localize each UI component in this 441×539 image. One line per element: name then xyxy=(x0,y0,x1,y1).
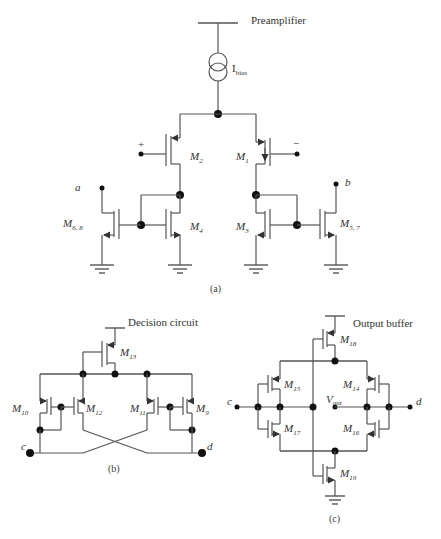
caption-b: (b) xyxy=(108,463,120,475)
circuit-figure: Preamplifier Ibias + M2 xyxy=(0,0,441,539)
transistor-m5-7 xyxy=(297,182,339,266)
b-terminal: b xyxy=(345,176,351,188)
transistor-m6-8 xyxy=(100,186,142,266)
m1-label: M1 xyxy=(235,150,249,165)
m16-label: M16 xyxy=(342,422,360,437)
m4-label: M4 xyxy=(189,220,203,235)
m11-label: M11 xyxy=(129,402,146,417)
transistor-m4 xyxy=(141,209,180,265)
transistor-m11 xyxy=(147,374,170,430)
d-terminal: d xyxy=(416,395,422,407)
panel-b-decision-circuit: Decision circuit M13 M10 xyxy=(11,316,213,475)
ground-icon xyxy=(244,265,268,273)
m13-label: M13 xyxy=(119,346,137,361)
transistor-m1 xyxy=(256,114,300,195)
plus-terminal: + xyxy=(138,138,144,150)
preamplifier-title: Preamplifier xyxy=(251,14,306,26)
decision-circuit-title: Decision circuit xyxy=(128,316,198,328)
transistor-m15 xyxy=(258,361,280,407)
transistor-m3 xyxy=(256,209,297,265)
m19-label: M19 xyxy=(339,467,357,482)
caption-c: (c) xyxy=(329,513,340,525)
m14-label: M14 xyxy=(342,378,360,393)
m12-label: M12 xyxy=(85,402,103,417)
d-terminal: d xyxy=(207,440,213,452)
minus-terminal: − xyxy=(293,137,299,149)
m6-8-label: M6, 8 xyxy=(62,217,83,232)
transistor-m2 xyxy=(139,114,181,195)
m18-label: M18 xyxy=(339,333,357,348)
c-terminal-node xyxy=(26,449,34,457)
panel-a-preamplifier: Preamplifier Ibias + M2 xyxy=(62,14,360,295)
ground-icon xyxy=(324,265,348,273)
current-source-icon xyxy=(209,53,227,81)
transistor-m19 xyxy=(313,451,335,496)
transistor-m10 xyxy=(40,374,61,430)
ground-icon xyxy=(325,496,345,504)
m10-label: M10 xyxy=(11,402,29,417)
transistor-m17 xyxy=(258,407,280,451)
transistor-m14 xyxy=(367,361,389,407)
m15-label: M15 xyxy=(283,378,301,393)
m5-7-label: M5, 7 xyxy=(339,217,360,232)
ground-icon xyxy=(168,265,192,273)
ibias-label: Ibias xyxy=(232,62,247,77)
d-terminal-node xyxy=(198,449,206,457)
transistor-m16 xyxy=(367,407,389,451)
ground-icon xyxy=(90,265,114,273)
transistor-m9 xyxy=(170,374,192,453)
c-terminal: c xyxy=(21,440,26,452)
panel-c-output-buffer: Output buffer M18 M15 xyxy=(227,316,422,525)
m2-label: M2 xyxy=(189,150,203,165)
output-buffer-title: Output buffer xyxy=(353,317,413,329)
c-terminal: c xyxy=(227,395,232,407)
transistor-m13 xyxy=(83,341,115,374)
caption-a: (a) xyxy=(210,283,221,295)
m9-label: M9 xyxy=(195,402,209,417)
a-terminal: a xyxy=(75,181,81,193)
vout-label: Vout xyxy=(326,393,343,407)
m3-label: M3 xyxy=(235,220,249,235)
m17-label: M17 xyxy=(283,422,301,437)
transistor-m12 xyxy=(61,374,83,430)
